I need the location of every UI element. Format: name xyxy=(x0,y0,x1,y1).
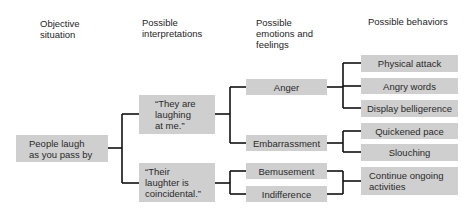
emotion-text: Bemusement xyxy=(259,166,315,177)
emotion-box-indifference: Indifference xyxy=(246,186,327,202)
emotion-text: Indifference xyxy=(262,189,311,200)
header-objective-situation: Objective situation xyxy=(40,18,80,40)
emotion-text: Anger xyxy=(274,82,299,93)
interpretation-box-coincidental: “Their laughter is coincidental.” xyxy=(139,163,215,202)
behavior-box-angry-words: Angry words xyxy=(361,78,458,94)
behavior-text: Slouching xyxy=(389,147,431,158)
behavior-box-slouching: Slouching xyxy=(361,144,458,161)
header-possible-emotions: Possible emotions and feelings xyxy=(256,17,313,50)
header-possible-behaviors: Possible behaviors xyxy=(368,16,448,27)
behavior-box-display-belligerence: Display belligerence xyxy=(361,100,458,117)
behavior-text: Quickened pace xyxy=(375,126,444,137)
behavior-box-continue-ongoing-activities: Continue ongoing activities xyxy=(361,167,458,195)
emotion-box-bemusement: Bemusement xyxy=(246,163,327,179)
emotion-text: Embarrassment xyxy=(253,138,320,149)
behavior-box-physical-attack: Physical attack xyxy=(361,55,458,72)
situation-text: People laugh as you pass by xyxy=(29,138,92,160)
header-possible-interpretations: Possible interpretations xyxy=(142,17,202,39)
situation-box: People laugh as you pass by xyxy=(16,135,108,162)
emotion-box-anger: Anger xyxy=(246,79,327,95)
emotion-box-embarrassment: Embarrassment xyxy=(246,135,327,151)
interpretation-text: “They are laughing at me.” xyxy=(155,98,196,131)
interpretation-box-laughing-at-me: “They are laughing at me.” xyxy=(139,95,215,134)
behavior-text: Display belligerence xyxy=(367,103,452,114)
behavior-text: Angry words xyxy=(383,81,436,92)
behavior-text: Continue ongoing activities xyxy=(369,170,443,192)
interpretation-text: “Their laughter is coincidental.” xyxy=(145,166,201,199)
behavior-text: Physical attack xyxy=(378,58,441,69)
behavior-box-quickened-pace: Quickened pace xyxy=(361,123,458,139)
